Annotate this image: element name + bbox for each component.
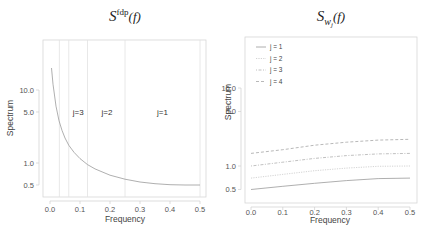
x-tick-label: 0.3 xyxy=(135,205,145,214)
right-wavelet-curves xyxy=(251,139,410,189)
left-y-label: Spectrum xyxy=(5,100,15,136)
x-tick-label: 0.5 xyxy=(405,208,415,217)
scale-label: j=2 xyxy=(101,108,113,117)
y-tick-label: 1.0 xyxy=(24,159,34,168)
left-title: Sfdp(f) xyxy=(109,7,141,24)
x-tick-label: 0.4 xyxy=(165,205,175,214)
wavelet-curve xyxy=(251,178,410,189)
y-tick-label: 0.5 xyxy=(226,185,236,194)
legend-label: j = 3 xyxy=(269,66,283,74)
right-x-label: Frequency xyxy=(310,215,351,225)
x-tick-label: 0.2 xyxy=(105,205,115,214)
x-tick-label: 0.0 xyxy=(45,205,55,214)
left-scale-boundaries xyxy=(59,40,200,197)
y-tick-label: 0.5 xyxy=(24,181,34,190)
left-x-label: Frequency xyxy=(105,214,146,224)
right-y-label: Spectrum xyxy=(223,84,233,120)
scale-label: j=1 xyxy=(156,108,168,117)
left-plot-frame xyxy=(43,40,206,197)
wavelet-curve xyxy=(251,139,410,153)
right-panel: Swj(f) j = 1j = 2j = 3j = 4 0.00.10.20.3… xyxy=(221,8,417,225)
legend: j = 1j = 2j = 3j = 4 xyxy=(256,43,283,86)
wavelet-curve xyxy=(251,153,410,166)
left-panel: Sfdp(f) j=3j=2j=1 0.00.10.20.30.40.5 0.5… xyxy=(5,7,206,224)
y-tick-label: 1.0 xyxy=(226,162,236,171)
wavelet-curve xyxy=(251,166,410,178)
left-x-axis: 0.00.10.20.30.40.5 xyxy=(45,201,205,214)
legend-label: j = 4 xyxy=(269,78,283,86)
scale-label: j=3 xyxy=(72,108,84,117)
left-annotations: j=3j=2j=1 xyxy=(72,108,169,117)
right-title: Swj(f) xyxy=(317,8,345,29)
y-tick-label: 10.0 xyxy=(19,86,34,95)
left-y-axis: 0.51.05.010.0 xyxy=(19,86,39,190)
left-spectrum-curve xyxy=(52,68,201,185)
legend-label: j = 1 xyxy=(269,43,283,51)
legend-label: j = 2 xyxy=(269,55,283,63)
x-tick-label: 0.1 xyxy=(278,208,288,217)
y-tick-label: 5.0 xyxy=(24,108,34,117)
x-tick-label: 0.4 xyxy=(373,208,383,217)
x-tick-label: 0.5 xyxy=(195,205,205,214)
x-tick-label: 0.0 xyxy=(246,208,256,217)
chart-canvas: Sfdp(f) j=3j=2j=1 0.00.10.20.30.40.5 0.5… xyxy=(0,0,435,234)
x-tick-label: 0.1 xyxy=(75,205,85,214)
